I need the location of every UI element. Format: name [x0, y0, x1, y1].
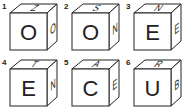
cube-icon: R U B	[124, 56, 184, 111]
cube-icon: T E N	[0, 56, 60, 111]
front-face-letter: O	[20, 20, 37, 45]
cube-6: 6 R U B	[124, 56, 184, 111]
cube-icon: Z O O	[0, 0, 60, 55]
cube-2: 2 S O N	[62, 0, 122, 55]
front-face-letter: E	[21, 76, 36, 101]
cube-5: 5 A C E	[62, 56, 122, 111]
cube-4: 4 T E N	[0, 56, 60, 111]
front-face-letter: E	[145, 20, 160, 45]
cube-icon: A C E	[62, 56, 122, 111]
front-face-letter: C	[83, 76, 99, 101]
cube-icon: N E E	[124, 0, 184, 55]
front-face-letter: U	[145, 76, 161, 101]
front-face-letter: O	[82, 20, 99, 45]
cube-3: 3 N E E	[124, 0, 184, 55]
cube-icon: S O N	[62, 0, 122, 55]
cube-1: 1 Z O O	[0, 0, 60, 55]
